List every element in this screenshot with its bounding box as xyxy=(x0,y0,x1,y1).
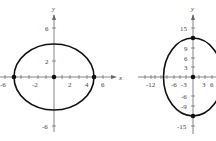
x-tick-label: 2 xyxy=(68,81,72,89)
charts-canvas: x y -6 -2 2 4 6 6 2 -6 y xyxy=(0,0,216,141)
x-tick-label: 3 xyxy=(202,81,206,89)
left-chart: x y -6 -2 2 4 6 6 2 -6 xyxy=(0,5,123,132)
center-point xyxy=(52,75,57,80)
vertex-point xyxy=(191,36,196,41)
y-tick-label: -6 xyxy=(181,93,187,101)
x-tick-label: -6 xyxy=(171,81,177,89)
y-tick-label: -15 xyxy=(177,123,187,131)
y-tick-label: 9 xyxy=(184,45,188,53)
x-tick-label: -6 xyxy=(0,81,6,89)
y-axis-label: y xyxy=(51,5,56,13)
vertex-point xyxy=(191,114,196,119)
x-tick-label: -12 xyxy=(146,81,156,89)
y-axis-arrow-icon xyxy=(52,14,56,20)
right-chart: y -12 -6 -3 3 6 15 9 6 3 -6 -9 -15 xyxy=(138,5,216,134)
x-tick-label: 4 xyxy=(85,81,89,89)
x-tick-label: 6 xyxy=(210,81,214,89)
x-tick-label: -2 xyxy=(32,81,38,89)
y-tick-label: -9 xyxy=(181,103,187,111)
y-tick-label: 6 xyxy=(45,25,49,33)
y-tick-label: -6 xyxy=(42,123,48,131)
y-tick-label: 3 xyxy=(184,64,188,72)
y-axis-label: y xyxy=(190,5,195,13)
y-tick-label: 15 xyxy=(180,25,188,33)
vertex-point xyxy=(12,75,17,80)
x-tick-label: -3 xyxy=(181,81,187,89)
y-tick-label: 2 xyxy=(45,58,49,66)
vertex-point xyxy=(92,75,97,80)
y-tick-label: 6 xyxy=(184,55,188,63)
x-tick-label: 6 xyxy=(101,81,105,89)
center-point xyxy=(191,75,196,80)
x-axis-arrow-icon xyxy=(111,75,117,79)
x-axis-label: x xyxy=(118,74,123,82)
y-axis-arrow-icon xyxy=(191,14,195,20)
